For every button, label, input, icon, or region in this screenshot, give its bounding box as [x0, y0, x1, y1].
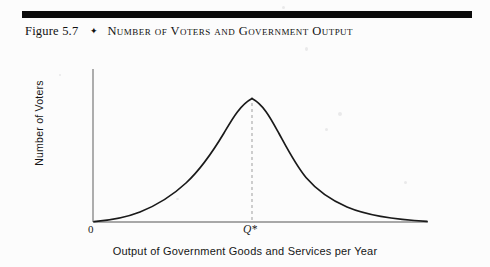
- x-axis-title: Output of Government Goods and Services …: [0, 245, 490, 257]
- x-axis-origin-label: 0: [88, 223, 94, 235]
- voter-distribution-curve: [94, 99, 427, 222]
- diamond-icon: ✦: [90, 26, 98, 36]
- qstar-label: Q*: [243, 223, 257, 235]
- voter-distribution-plot: [0, 55, 490, 267]
- y-axis-title: Number of Voters: [33, 58, 45, 188]
- page-speckle: [305, 47, 308, 51]
- caption-rule: [22, 11, 472, 18]
- figure-caption: Figure 5.7 ✦ Number of Voters and Govern…: [25, 24, 353, 42]
- figure-number: Figure 5.7: [25, 24, 78, 39]
- figure-page: Figure 5.7 ✦ Number of Voters and Govern…: [0, 0, 490, 267]
- figure-title: Number of Voters and Government Output: [107, 24, 353, 39]
- chart-area: 0 Q* Number of Voters Output of Governme…: [0, 55, 490, 267]
- page-speckle: [282, 6, 285, 9]
